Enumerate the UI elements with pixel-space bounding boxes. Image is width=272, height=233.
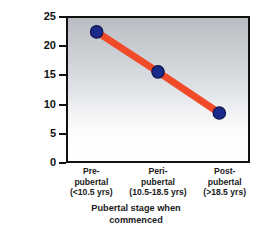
x-category-peri-pubertal: Peri- pubertal (10.5-18.5 yrs) bbox=[125, 166, 192, 198]
y-tick-label-20: 20 bbox=[44, 40, 56, 51]
y-tick-mark-5 bbox=[59, 133, 66, 135]
y-tick-label-5: 5 bbox=[50, 128, 56, 139]
y-tick-label-10: 10 bbox=[44, 99, 56, 110]
x-category-pre-pubertal-line-2: pubertal bbox=[58, 177, 125, 188]
x-axis-title: Pubertal stage when commenced bbox=[0, 203, 272, 226]
chart-figure: Percent difference (playing vs. nonplayi… bbox=[0, 0, 272, 233]
x-category-pre-pubertal-line-3: (<10.5 yrs) bbox=[58, 187, 125, 198]
x-category-post-pubertal-line-2: pubertal bbox=[191, 177, 258, 188]
x-category-post-pubertal: Post- pubertal (>18.5 yrs) bbox=[191, 166, 258, 198]
y-tick-mark-25 bbox=[59, 16, 66, 18]
x-axis-title-line-2: commenced bbox=[0, 215, 272, 227]
x-category-pre-pubertal-line-1: Pre- bbox=[58, 166, 125, 177]
y-tick-mark-15 bbox=[59, 74, 66, 76]
y-tick-label-0: 0 bbox=[50, 157, 56, 168]
x-category-post-pubertal-line-3: (>18.5 yrs) bbox=[191, 187, 258, 198]
x-category-pre-pubertal: Pre- pubertal (<10.5 yrs) bbox=[58, 166, 125, 198]
x-axis-title-line-1: Pubertal stage when bbox=[0, 203, 272, 215]
x-category-peri-pubertal-line-2: pubertal bbox=[125, 177, 192, 188]
y-tick-label-15: 15 bbox=[44, 69, 56, 80]
y-tick-mark-10 bbox=[59, 104, 66, 106]
x-category-peri-pubertal-line-3: (10.5-18.5 yrs) bbox=[125, 187, 192, 198]
y-tick-label-25: 25 bbox=[44, 11, 56, 22]
y-tick-mark-20 bbox=[59, 45, 66, 47]
x-category-peri-pubertal-line-1: Peri- bbox=[125, 166, 192, 177]
x-axis-categories: Pre- pubertal (<10.5 yrs) Peri- pubertal… bbox=[58, 166, 258, 198]
plot-area bbox=[66, 16, 250, 163]
y-tick-mark-0 bbox=[59, 162, 66, 164]
x-category-post-pubertal-line-1: Post- bbox=[191, 166, 258, 177]
